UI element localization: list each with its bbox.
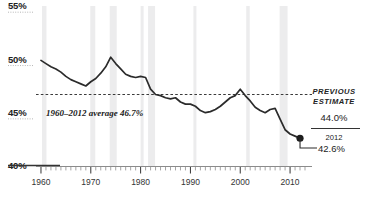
- recession-bands: [42, 6, 288, 166]
- recession-band: [193, 6, 196, 166]
- x-axis-tick-label: 1990: [181, 177, 200, 187]
- current-year-label: 2012: [326, 133, 343, 142]
- x-axis-minor-ticks: [46, 167, 305, 170]
- previous-estimate-heading-line1: PREVIOUS: [312, 87, 355, 96]
- recession-band: [90, 6, 95, 166]
- x-axis-tick-label: 2010: [281, 177, 300, 187]
- average-line-label: 1960–2012 average 46.7%: [46, 108, 144, 118]
- previous-estimate-heading-line2: ESTIMATE: [313, 97, 355, 106]
- recession-band: [110, 6, 117, 166]
- data-line-series: [41, 57, 300, 138]
- x-axis-tick-label: 1960: [32, 177, 51, 187]
- y-axis-ticks: 55%50%45%40%: [8, 0, 34, 171]
- recession-band: [280, 6, 288, 166]
- previous-estimate-value: 44.0%: [321, 112, 348, 123]
- y-axis-tick-label: 50%: [8, 54, 27, 65]
- y-axis-tick-label: 45%: [8, 107, 27, 118]
- x-axis-tick-label: 2000: [231, 177, 250, 187]
- chart-container: 55%50%45%40% 196019701980199020002010 19…: [0, 0, 370, 200]
- y-axis-tick-label: 55%: [8, 0, 27, 11]
- recession-band: [246, 6, 249, 166]
- line-chart: 55%50%45%40% 196019701980199020002010 19…: [0, 0, 370, 200]
- recession-band: [141, 6, 144, 166]
- x-axis-tick-label: 1970: [81, 177, 100, 187]
- x-axis-labels: 196019701980199020002010: [32, 177, 300, 187]
- current-value-label: 42.6%: [318, 143, 345, 154]
- x-axis-tick-label: 1980: [131, 177, 150, 187]
- recession-band: [42, 6, 46, 166]
